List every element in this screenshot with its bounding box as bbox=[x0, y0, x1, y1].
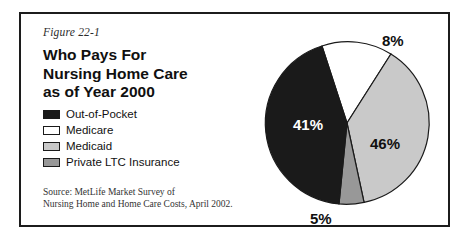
page-title: Who Pays For Nursing Home Care as of Yea… bbox=[43, 46, 253, 102]
legend-item-label: Private LTC Insurance bbox=[66, 156, 180, 169]
slice-label-private-ltc-insurance: 5% bbox=[310, 210, 332, 227]
legend-item-label: Medicaid bbox=[66, 140, 112, 153]
chart-legend: Out-of-Pocket Medicare Medicaid Private … bbox=[43, 107, 258, 171]
pie-chart: 8% 46% 5% 41% bbox=[227, 18, 452, 229]
slice-label-medicare: 8% bbox=[382, 32, 404, 49]
legend-swatch-icon bbox=[43, 142, 60, 151]
legend-item-medicaid: Medicaid bbox=[43, 139, 258, 154]
legend-item-label: Medicare bbox=[66, 124, 113, 137]
title-line-3: as of Year 2000 bbox=[43, 83, 253, 102]
pie-slices bbox=[265, 42, 429, 205]
slice-label-out-of-pocket: 41% bbox=[293, 116, 323, 133]
legend-item-private-ltc-insurance: Private LTC Insurance bbox=[43, 155, 258, 170]
slice-label-medicaid: 46% bbox=[370, 135, 400, 152]
pie-chart-svg: 8% 46% 5% 41% bbox=[227, 18, 452, 229]
legend-item-medicare: Medicare bbox=[43, 123, 258, 138]
legend-swatch-icon bbox=[43, 158, 60, 167]
figure-frame: Figure 22-1 Who Pays For Nursing Home Ca… bbox=[19, 12, 450, 227]
legend-swatch-icon bbox=[43, 126, 60, 135]
title-line-1: Who Pays For bbox=[43, 46, 253, 65]
legend-item-label: Out-of-Pocket bbox=[66, 108, 137, 121]
legend-swatch-icon bbox=[43, 110, 60, 119]
title-line-2: Nursing Home Care bbox=[43, 65, 253, 84]
figure-number-label: Figure 22-1 bbox=[43, 26, 100, 38]
legend-item-out-of-pocket: Out-of-Pocket bbox=[43, 107, 258, 122]
